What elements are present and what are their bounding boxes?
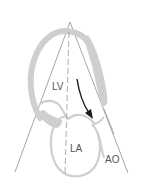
label-ao: AO — [105, 154, 120, 165]
label-la: LA — [70, 143, 83, 154]
aortic-root-wall — [84, 35, 107, 108]
flow-arrow — [77, 79, 93, 119]
label-lv: LV — [52, 81, 64, 92]
apical-heart-diagram: LV LA AO — [0, 0, 141, 190]
center-axis — [65, 32, 69, 176]
aortic-root — [93, 109, 114, 158]
